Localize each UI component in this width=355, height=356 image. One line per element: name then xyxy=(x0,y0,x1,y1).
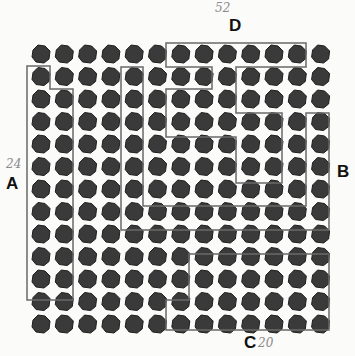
blob xyxy=(195,113,213,131)
blob xyxy=(125,203,143,221)
blob xyxy=(288,68,306,86)
blob xyxy=(102,158,120,176)
blob xyxy=(125,113,143,131)
blob xyxy=(195,45,213,63)
blob xyxy=(265,270,283,288)
blob xyxy=(242,45,260,63)
blob xyxy=(79,135,97,153)
blob xyxy=(79,68,97,86)
blob xyxy=(55,180,73,198)
blob xyxy=(195,180,213,198)
grouping-diagram: 24 A 52 D B C 20 xyxy=(0,0,355,356)
blob xyxy=(288,248,306,266)
blob xyxy=(218,90,236,108)
blob xyxy=(149,203,167,221)
blob xyxy=(172,248,190,266)
blob xyxy=(125,225,143,243)
blob xyxy=(312,203,330,221)
annotation-a: 24 xyxy=(6,158,21,170)
blob xyxy=(32,158,50,176)
blob xyxy=(125,293,143,311)
blob xyxy=(288,270,306,288)
blob xyxy=(288,135,306,153)
blob xyxy=(125,158,143,176)
blob xyxy=(218,45,236,63)
annotation-c: 20 xyxy=(258,337,273,349)
blob xyxy=(242,68,260,86)
blob xyxy=(125,315,143,333)
blob xyxy=(265,293,283,311)
label-b: B xyxy=(337,163,349,180)
blob xyxy=(265,45,283,63)
blob xyxy=(149,225,167,243)
blob xyxy=(102,225,120,243)
blob xyxy=(55,315,73,333)
blob xyxy=(149,315,167,333)
blob xyxy=(125,270,143,288)
blob xyxy=(102,135,120,153)
blob xyxy=(55,203,73,221)
blob xyxy=(265,225,283,243)
blob xyxy=(55,248,73,266)
blob xyxy=(149,135,167,153)
blob xyxy=(102,90,120,108)
blob xyxy=(218,180,236,198)
blob xyxy=(149,113,167,131)
annotation-d: 52 xyxy=(215,2,230,14)
blob xyxy=(125,135,143,153)
blob xyxy=(195,68,213,86)
blob xyxy=(32,293,50,311)
blob xyxy=(288,293,306,311)
blob xyxy=(312,270,330,288)
blob xyxy=(102,68,120,86)
blob xyxy=(312,68,330,86)
blob xyxy=(55,90,73,108)
blob xyxy=(172,158,190,176)
blob xyxy=(102,45,120,63)
blob xyxy=(172,68,190,86)
blob xyxy=(79,248,97,266)
blob xyxy=(288,45,306,63)
blob xyxy=(79,113,97,131)
blob xyxy=(79,315,97,333)
blob xyxy=(55,293,73,311)
blob xyxy=(32,113,50,131)
blob xyxy=(195,293,213,311)
blob xyxy=(218,225,236,243)
blob xyxy=(312,180,330,198)
blob xyxy=(102,203,120,221)
blob xyxy=(149,90,167,108)
blob xyxy=(312,293,330,311)
blob xyxy=(195,270,213,288)
blob xyxy=(79,90,97,108)
blob xyxy=(149,248,167,266)
blob xyxy=(125,90,143,108)
blob xyxy=(125,45,143,63)
blob xyxy=(102,180,120,198)
blob xyxy=(55,158,73,176)
blob xyxy=(218,113,236,131)
blob xyxy=(55,135,73,153)
blob xyxy=(149,158,167,176)
blob xyxy=(102,293,120,311)
blob xyxy=(32,270,50,288)
blob xyxy=(312,45,330,63)
blob-grid xyxy=(0,0,355,356)
blob xyxy=(265,113,283,131)
blob xyxy=(172,113,190,131)
blob xyxy=(172,180,190,198)
blob xyxy=(265,90,283,108)
blob xyxy=(288,225,306,243)
blob xyxy=(32,90,50,108)
blob xyxy=(79,203,97,221)
blob xyxy=(149,293,167,311)
blob xyxy=(312,158,330,176)
blob xyxy=(242,270,260,288)
blob xyxy=(218,68,236,86)
blob xyxy=(79,45,97,63)
blob xyxy=(149,180,167,198)
blob xyxy=(265,203,283,221)
blob xyxy=(195,90,213,108)
blob xyxy=(242,113,260,131)
blob xyxy=(312,225,330,243)
